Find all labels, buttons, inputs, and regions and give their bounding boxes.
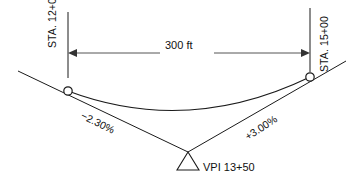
vpi-triangle-icon — [177, 152, 199, 170]
right-arrowhead-icon — [301, 49, 310, 57]
incoming-grade-tangent — [18, 71, 188, 152]
left-arrowhead-icon — [68, 49, 77, 57]
vpi-label: VPI 13+50 — [203, 162, 255, 173]
evc-point-marker — [306, 73, 314, 81]
parabolic-sag-curve — [68, 77, 310, 110]
bvc-point-marker — [64, 87, 72, 95]
dimension-label: 300 ft — [162, 40, 196, 51]
station-label-left: STA. 12+00 — [47, 0, 58, 48]
outgoing-grade-tangent — [188, 61, 346, 152]
vertical-curve-diagram: STA. 12+00 STA. 15+00 300 ft −2.30% +3.0… — [0, 0, 360, 182]
station-label-right: STA. 15+00 — [319, 16, 330, 72]
